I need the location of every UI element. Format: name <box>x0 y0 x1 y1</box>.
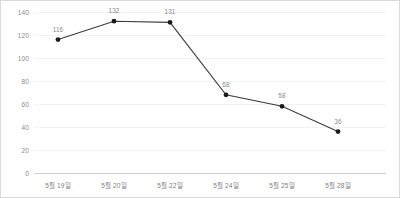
series-polyline <box>58 21 338 131</box>
y-tick-label: 140 <box>18 9 29 16</box>
x-axis-line <box>34 173 386 174</box>
y-tick-label: 0 <box>25 170 29 177</box>
y-tick-label: 120 <box>18 32 29 39</box>
x-tick-label: 5월 28일 <box>325 180 350 190</box>
data-point-marker <box>168 20 173 25</box>
x-tick-label: 5월 20일 <box>101 180 126 190</box>
y-tick-label: 80 <box>22 78 29 85</box>
x-tick-label: 5월 22일 <box>157 180 182 190</box>
x-tick-label: 5월 24일 <box>213 180 238 190</box>
data-point-label: 116 <box>53 26 64 33</box>
data-point-marker <box>336 129 341 134</box>
data-point-label: 132 <box>108 7 119 14</box>
y-tick-label: 60 <box>22 101 29 108</box>
data-series-line <box>34 12 386 173</box>
data-point-label: 68 <box>222 81 229 88</box>
x-tick-label: 5월 25일 <box>269 180 294 190</box>
data-point-label: 36 <box>334 118 341 125</box>
plot-area: 020406080100120140 5월 19일5월 20일5월 22일5월 … <box>34 12 386 173</box>
y-tick-label: 20 <box>22 147 29 154</box>
y-tick-label: 40 <box>22 124 29 131</box>
x-tick-label: 5월 19일 <box>45 180 70 190</box>
data-point-marker <box>224 92 229 97</box>
line-chart: 020406080100120140 5월 19일5월 20일5월 22일5월 … <box>0 0 400 198</box>
data-point-marker <box>112 19 117 24</box>
data-point-label: 131 <box>164 8 175 15</box>
y-tick-label: 100 <box>18 55 29 62</box>
data-point-marker <box>280 104 285 109</box>
data-point-marker <box>56 37 61 42</box>
data-point-label: 58 <box>278 92 285 99</box>
